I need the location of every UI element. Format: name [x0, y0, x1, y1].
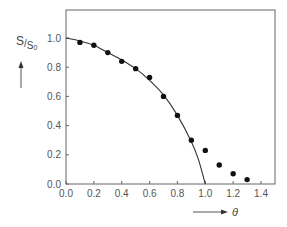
y-tick-label: 1.0 — [47, 33, 61, 44]
x-tick-label: 0.6 — [143, 188, 157, 199]
data-point — [175, 113, 180, 118]
data-point — [147, 75, 152, 80]
data-point — [105, 50, 110, 55]
x-tick-label: 0.0 — [59, 188, 73, 199]
x-tick-label: 0.4 — [115, 188, 129, 199]
data-point — [77, 40, 82, 45]
x-tick-label: 0.2 — [87, 188, 101, 199]
data-point — [230, 171, 235, 176]
data-point — [217, 162, 222, 167]
y-label-subscript: 0 — [33, 44, 37, 51]
y-tick-label: 0.2 — [47, 149, 61, 160]
x-tick-label: 0.8 — [170, 188, 184, 199]
data-point — [161, 94, 166, 99]
data-point — [189, 138, 194, 143]
x-tick-label: 1.2 — [226, 188, 240, 199]
theory-curve — [66, 38, 205, 184]
y-label-main: S — [16, 34, 24, 48]
x-arrow-head-icon — [221, 210, 228, 215]
x-axis-label: θ — [232, 206, 238, 218]
data-point — [133, 66, 138, 71]
y-axis-label: S/S0 — [16, 34, 37, 51]
data-points — [77, 40, 250, 183]
y-tick-label: 0.6 — [47, 91, 61, 102]
data-point — [91, 43, 96, 48]
x-tick-label: 1.0 — [198, 188, 212, 199]
chart: 0.00.20.40.60.81.0 0.00.20.40.60.81.01.2… — [0, 0, 287, 227]
data-point — [203, 148, 208, 153]
plot-frame — [66, 10, 275, 184]
data-point — [244, 177, 249, 182]
y-tick-label: 0.4 — [47, 120, 61, 131]
y-tick-label: 0.8 — [47, 62, 61, 73]
x-tick-label: 1.4 — [254, 188, 268, 199]
y-arrow-head-icon — [19, 61, 24, 68]
data-point — [119, 59, 124, 64]
